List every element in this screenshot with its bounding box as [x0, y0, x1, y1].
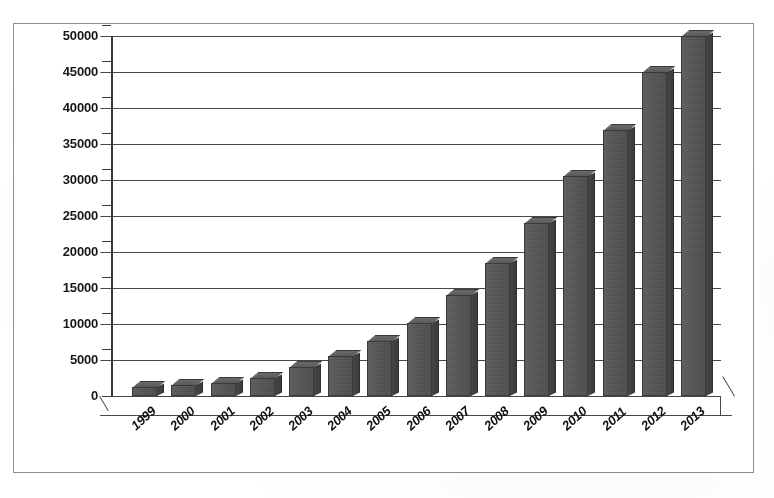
- bar-front-face: [367, 341, 392, 396]
- y-axis-tick: [102, 241, 111, 242]
- bar-front-face: [171, 385, 196, 396]
- bar-front-face: [211, 383, 236, 396]
- y-axis-tick-label: 5000: [36, 352, 98, 367]
- floor-inner-right-edge: [720, 396, 721, 416]
- floor-left-edge: [100, 396, 112, 416]
- y-axis-tick: [102, 205, 111, 206]
- bar-2004: [328, 356, 353, 396]
- bar-2011: [603, 130, 628, 396]
- bar-front-face: [681, 36, 706, 396]
- y-axis-tick: [102, 349, 111, 350]
- bar-2000: [171, 385, 196, 396]
- bar-front-face: [642, 72, 667, 396]
- bar-front-face: [407, 323, 432, 396]
- y-axis-tick: [102, 61, 111, 62]
- bar-2008: [485, 263, 510, 396]
- y-axis-tick-label: 15000: [36, 280, 98, 295]
- bar-front-face: [446, 295, 471, 396]
- bar-2003: [289, 367, 314, 396]
- y-axis-tick-label: 40000: [36, 100, 98, 115]
- bar-front-face: [524, 223, 549, 396]
- chart-page-border: 5000045000400003500030000250002000015000…: [13, 23, 754, 473]
- bar-front-face: [485, 263, 510, 396]
- bar-2013: [681, 36, 706, 396]
- y-axis-tick-label: 0: [36, 388, 98, 403]
- bar-2002: [250, 378, 275, 396]
- bar-front-face: [289, 367, 314, 396]
- y-axis-tick-label: 45000: [36, 64, 98, 79]
- bar-front-face: [132, 387, 157, 396]
- bar-2012: [642, 72, 667, 396]
- bar-2009: [524, 223, 549, 396]
- y-axis-tick-label: 35000: [36, 136, 98, 151]
- y-axis-tick: [102, 25, 111, 26]
- plot-area: [111, 36, 721, 396]
- y-axis-tick-label: 50000: [36, 28, 98, 43]
- bar-front-face: [250, 378, 275, 396]
- gridline: [111, 72, 721, 73]
- bar-2006: [407, 323, 432, 396]
- gridline: [111, 108, 721, 109]
- bar-side-face: [471, 292, 478, 396]
- floor-top-edge: [111, 396, 721, 397]
- bar-front-face: [603, 130, 628, 396]
- y-axis-tick: [102, 97, 111, 98]
- bar-side-face: [706, 33, 713, 396]
- bar-1999: [132, 387, 157, 396]
- y-axis-tick: [102, 313, 111, 314]
- bar-2005: [367, 341, 392, 396]
- bar-side-face: [628, 126, 635, 396]
- y-axis-tick-label: 10000: [36, 316, 98, 331]
- gridline: [111, 36, 721, 37]
- y-axis-tick: [102, 133, 111, 134]
- y-axis-tick-label: 30000: [36, 172, 98, 187]
- bar-front-face: [328, 356, 353, 396]
- bar-2001: [211, 383, 236, 396]
- bar-side-face: [510, 259, 517, 396]
- bar-2007: [446, 295, 471, 396]
- floor-right-edge: [720, 396, 732, 416]
- bar-2010: [563, 176, 588, 396]
- bar-side-face: [667, 69, 674, 396]
- bar-side-face: [588, 173, 595, 396]
- bar-side-face: [549, 220, 556, 396]
- bar-chart: 5000045000400003500030000250002000015000…: [14, 24, 755, 474]
- bar-side-face: [432, 319, 439, 396]
- y-axis-tick: [102, 169, 111, 170]
- bar-side-face: [392, 337, 399, 396]
- y-axis-tick-label: 20000: [36, 244, 98, 259]
- bar-front-face: [563, 176, 588, 396]
- bar-side-face: [314, 364, 321, 396]
- y-axis-tick-label: 25000: [36, 208, 98, 223]
- y-axis-tick: [102, 277, 111, 278]
- bar-side-face: [353, 352, 360, 396]
